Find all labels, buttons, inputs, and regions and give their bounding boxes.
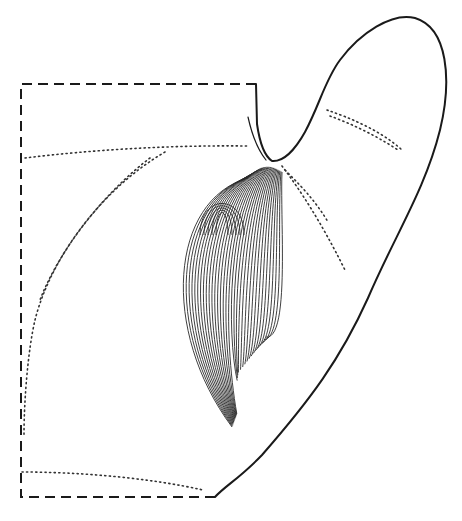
dotted-line-fan-right [282,166,345,270]
dotted-line-left-arc [24,152,165,435]
dotted-line-thumb-2 [330,116,398,150]
muscle-fiber [264,171,281,339]
dotted-line-left-arc-2 [40,158,150,300]
dotted-line-upper [25,146,247,158]
muscle-fibers [183,167,282,427]
dotted-line-bottom [22,472,203,490]
hand-anatomy-illustration [0,0,462,521]
